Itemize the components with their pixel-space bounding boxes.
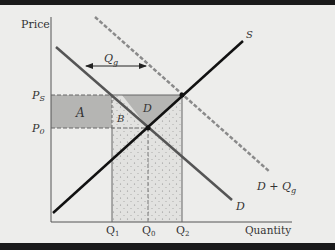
y-axis-label: Price bbox=[21, 18, 50, 31]
bottom-border-bar bbox=[0, 243, 335, 250]
supply-demand-diagram: Qg Price Quantity PS P0 Q1 Q0 Q2 A B D S… bbox=[0, 0, 335, 250]
price-tick-ps: PS bbox=[31, 89, 45, 103]
region-d-label: D bbox=[142, 102, 152, 115]
gov-purchase-label: Qg bbox=[104, 52, 118, 67]
region-b-label: B bbox=[116, 113, 124, 124]
supply-label: S bbox=[246, 29, 253, 40]
demand-plus-gov-label: D + Qg bbox=[256, 180, 296, 195]
price-tick-p0: P0 bbox=[31, 122, 45, 136]
region-a-label: A bbox=[75, 106, 85, 120]
equilibrium-point bbox=[146, 126, 151, 131]
diagram-frame: Qg Price Quantity PS P0 Q1 Q0 Q2 A B D S… bbox=[0, 0, 335, 250]
quantity-tick-q1: Q1 bbox=[106, 224, 120, 238]
quantity-tick-q2: Q2 bbox=[176, 224, 190, 238]
demand-label: D bbox=[235, 200, 245, 213]
x-axis-label: Quantity bbox=[245, 224, 291, 236]
quantity-tick-q0: Q0 bbox=[142, 224, 156, 238]
new-equilibrium-point bbox=[180, 93, 185, 98]
